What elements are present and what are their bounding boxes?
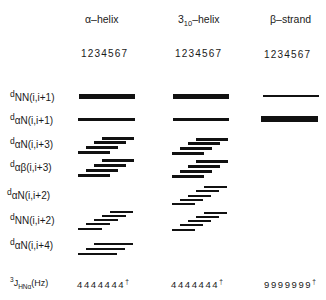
column-title-3-10-helix: 310–helix <box>178 13 220 28</box>
column-title-beta-strand: β–strand <box>270 13 311 25</box>
bar-alpha-daN-i4 <box>78 253 117 255</box>
j-values-alpha: 4444444† <box>77 278 129 290</box>
bar-310-daN-i1 <box>173 118 229 121</box>
bar-310-daN-i2 <box>180 199 203 201</box>
bar-alpha-dab-i3 <box>78 174 110 177</box>
bar-alpha-daN-i3 <box>86 146 118 149</box>
row-label-daN-i-i2: dαN(i,i+2) <box>7 187 50 201</box>
bar-alpha-daN-i4 <box>86 248 125 250</box>
bar-alpha-daN-i3 <box>102 137 134 140</box>
bar-310-dNN-i2 <box>180 224 203 226</box>
j-values-beta: 9999999† <box>264 278 316 290</box>
row-label-daN-i-i3: dαN(i,i+3) <box>10 136 53 150</box>
bar-310-dNN-i2 <box>196 216 219 218</box>
bar-310-daN-i2 <box>196 190 219 192</box>
bar-310-daN-i2 <box>188 195 211 197</box>
row-label-dNN-i-i2: dNN(i,i+2) <box>10 212 54 226</box>
bar-alpha-dab-i3 <box>94 164 126 167</box>
bar-310-dab-i3 <box>180 170 212 173</box>
bar-alpha-dNN-i2 <box>86 223 110 225</box>
bar-alpha-dab-i3 <box>102 159 134 162</box>
j-values-3-10: 4444444† <box>171 278 223 290</box>
bar-310-daN-i2 <box>172 203 195 205</box>
residue-numbers-beta: 1234567 <box>264 49 311 60</box>
bar-310-daN-i3 <box>180 147 212 150</box>
bar-310-dNN-i2 <box>188 220 211 222</box>
bar-alpha-daN-i3 <box>78 151 110 154</box>
row-label-dNN-i-i1: dNN(i,i+1) <box>10 89 54 103</box>
bar-alpha-daN-i4 <box>94 243 133 245</box>
bar-alpha-daN-i1 <box>78 118 135 121</box>
j-coupling-label: 3JHNα(Hz) <box>10 276 48 290</box>
bar-alpha-daN-i3 <box>94 141 126 144</box>
bar-beta-daN-i1 <box>261 116 318 122</box>
column-title-alpha-helix: α–helix <box>85 13 119 25</box>
bar-310-dNN-i2 <box>204 212 227 214</box>
row-label-dab-i-i3: dαβ(i,i+3) <box>10 159 52 173</box>
bar-310-dab-i3 <box>196 160 228 163</box>
residue-numbers-3-10: 1234567 <box>175 48 222 59</box>
row-label-daN-i-i4: dαN(i,i+4) <box>10 237 53 251</box>
row-label-daN-i-i1: dαN(i,i+1) <box>10 112 53 126</box>
bar-alpha-dNN-i2 <box>102 215 126 217</box>
bar-310-daN-i3 <box>172 152 204 155</box>
bar-310-daN-i3 <box>196 138 228 141</box>
bar-alpha-dNN-i2 <box>78 228 102 230</box>
bar-alpha-dNN-i1 <box>79 94 135 99</box>
bar-alpha-dNN-i2 <box>94 219 118 221</box>
residue-numbers-alpha: 1234567 <box>81 48 128 59</box>
bar-310-dNN-i1 <box>173 94 229 99</box>
bar-310-daN-i2 <box>204 186 227 188</box>
bar-310-dNN-i2 <box>172 229 195 231</box>
bar-alpha-dNN-i2 <box>110 211 133 213</box>
bar-310-dab-i3 <box>172 175 204 178</box>
bar-310-daN-i3 <box>188 142 220 145</box>
bar-310-dab-i3 <box>188 165 220 168</box>
bar-beta-dNN-i1 <box>263 95 319 97</box>
bar-alpha-dab-i3 <box>86 169 118 172</box>
